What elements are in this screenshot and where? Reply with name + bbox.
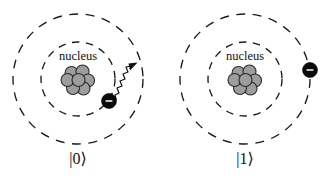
- ket-label-state-zero: |0⟩: [38, 150, 118, 168]
- nucleus-cluster: [228, 65, 262, 95]
- photon-arrowhead: [129, 63, 138, 71]
- emitted-photon-wave: [112, 63, 138, 101]
- nucleus-label: nucleus: [210, 50, 280, 63]
- atom-panel-state-one: nucleus |1⟩: [167, 0, 334, 178]
- nucleon: [72, 74, 85, 87]
- atom-qubit-figure: nucleus |0⟩ nucleus |1⟩: [0, 0, 334, 178]
- ket-label-state-one: |1⟩: [205, 150, 285, 168]
- nucleon: [239, 74, 252, 87]
- nucleus-label: nucleus: [43, 50, 113, 63]
- atom-panel-state-zero: nucleus |0⟩: [0, 0, 167, 178]
- nucleus-cluster: [61, 65, 95, 95]
- electron-excited: [303, 63, 318, 78]
- electron-ground: [102, 94, 117, 109]
